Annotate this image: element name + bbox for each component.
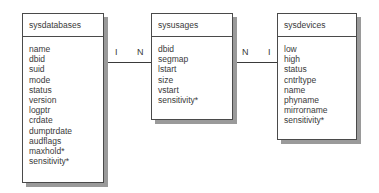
cardinality-label: N (242, 47, 249, 57)
field: sensitivity* (284, 115, 356, 125)
entity-sysusages: sysusages dbid segmap lstart size vstart… (151, 13, 233, 120)
field-list: name dbid suid mode status version logpt… (23, 37, 103, 166)
field: segmap (158, 54, 232, 64)
field: status (284, 64, 356, 74)
entity-title: sysusages (152, 14, 232, 37)
field: sensitivity* (158, 95, 232, 105)
entity-title: sysdatabases (23, 14, 103, 37)
field: size (158, 75, 232, 85)
field: sensitivity* (29, 156, 103, 166)
field: suid (29, 64, 103, 74)
entity-title: sysdevices (278, 14, 356, 37)
field: low (284, 44, 356, 54)
field: name (284, 85, 356, 95)
field: cntrltype (284, 75, 356, 85)
cardinality-label: I (115, 47, 118, 57)
field: mode (29, 75, 103, 85)
relationship-line-databases-usages (108, 62, 151, 63)
entity-sysdevices: sysdevices low high status cntrltype nam… (277, 13, 357, 140)
field-list: dbid segmap lstart size vstart sensitivi… (152, 37, 232, 105)
field: mirrorname (284, 105, 356, 115)
cardinality-label: N (137, 47, 144, 57)
field: crdate (29, 115, 103, 125)
field: dumptrdate (29, 126, 103, 136)
field: dbid (29, 54, 103, 64)
cardinality-label: I (268, 47, 271, 57)
field: phyname (284, 95, 356, 105)
field: high (284, 54, 356, 64)
field-list: low high status cntrltype name phyname m… (278, 37, 356, 126)
field: logptr (29, 105, 103, 115)
field: dbid (158, 44, 232, 54)
field: audflags (29, 136, 103, 146)
field: lstart (158, 64, 232, 74)
entity-sysdatabases: sysdatabases name dbid suid mode status … (22, 13, 104, 183)
field: status (29, 85, 103, 95)
relationship-line-usages-devices (237, 62, 277, 63)
field: name (29, 44, 103, 54)
field: version (29, 95, 103, 105)
field: maxhold* (29, 146, 103, 156)
field: vstart (158, 85, 232, 95)
